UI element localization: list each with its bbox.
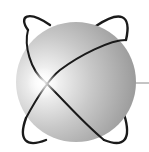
orbit-ring-a-back <box>24 16 50 30</box>
atom-sphere-icon <box>0 0 149 152</box>
sphere-orbit-logo <box>0 0 149 152</box>
sphere-highlight <box>27 67 59 99</box>
